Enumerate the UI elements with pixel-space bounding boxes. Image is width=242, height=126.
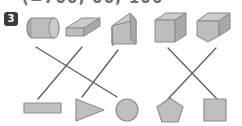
worksheet-page: (=700, 00, 100 3 [0, 0, 242, 126]
solid-cylinder[interactable] [27, 18, 59, 38]
flat-square[interactable] [204, 99, 226, 121]
solid-cube[interactable] [155, 13, 186, 42]
connector-rectprism-to-rectangle[interactable] [38, 47, 82, 99]
solid-flat-rectangular-prism[interactable] [66, 18, 100, 36]
flat-circle[interactable] [116, 99, 138, 121]
solid-pentagonal-prism[interactable] [197, 13, 230, 42]
flat-triangle[interactable] [76, 99, 104, 121]
connector-triprism-to-triangle[interactable] [82, 50, 118, 97]
flat-rectangle[interactable] [24, 103, 61, 113]
shapes-canvas [0, 0, 242, 126]
flat-pentagon[interactable] [157, 98, 183, 122]
solid-triangular-prism[interactable] [112, 13, 136, 46]
